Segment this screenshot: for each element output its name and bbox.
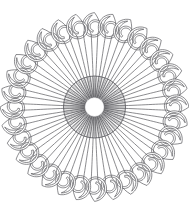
rosette-illustration: Radial Rosette Line Drawing Symmetric ci… [0,0,189,210]
artboard: Radial Rosette Line Drawing Symmetric ci… [0,0,189,210]
hub-core-layer [85,98,104,117]
